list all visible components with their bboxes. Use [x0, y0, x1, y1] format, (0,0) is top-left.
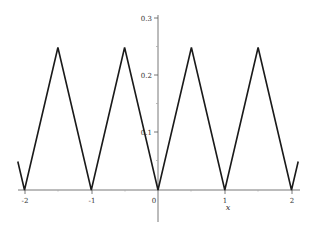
x-ticks	[25, 190, 292, 194]
y-tick-label: 0.1	[141, 129, 152, 137]
x-axis-label: x	[226, 203, 231, 212]
x-tick-label: 0	[152, 197, 156, 205]
x-tick-label: -1	[89, 197, 96, 205]
x-tick-label: -2	[22, 197, 29, 205]
chart: -2 -1 0 1 2 0.3 0.2 0.1 x	[0, 0, 315, 225]
y-tick-label: 0.2	[141, 72, 152, 80]
y-tick-label: 0.3	[141, 15, 152, 23]
x-tick-label: 2	[290, 197, 294, 205]
y-ticks	[154, 18, 158, 161]
